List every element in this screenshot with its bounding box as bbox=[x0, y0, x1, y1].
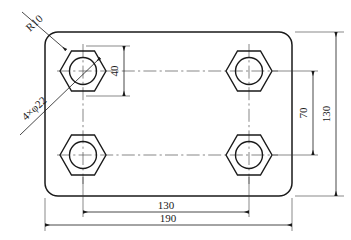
centerlines bbox=[57, 44, 278, 184]
dimension-hole-pitch-y: 70 bbox=[272, 71, 318, 155]
technical-drawing-svg: R10 4×φ22 40 70 130 bbox=[0, 0, 351, 240]
leader-line bbox=[20, 58, 100, 135]
corner-radius-leader: R10 bbox=[22, 12, 66, 50]
hole-callout-leader: 4×φ22 bbox=[19, 58, 100, 135]
drawing-canvas: R10 4×φ22 40 70 130 bbox=[0, 0, 351, 240]
dimension-label-190: 190 bbox=[160, 212, 177, 224]
plate-outline bbox=[45, 32, 292, 196]
dimension-hole-pitch-x: 130 bbox=[83, 177, 249, 217]
hole-callout-label: 4×φ22 bbox=[19, 94, 48, 123]
dimension-label-40: 40 bbox=[108, 65, 120, 77]
dimension-label-130-horizontal: 130 bbox=[158, 199, 175, 211]
dimension-label-130-vertical: 130 bbox=[320, 105, 332, 122]
corner-radius-label: R10 bbox=[23, 12, 45, 34]
plate-outline-rect bbox=[45, 32, 292, 196]
dimension-label-70: 70 bbox=[297, 107, 309, 119]
